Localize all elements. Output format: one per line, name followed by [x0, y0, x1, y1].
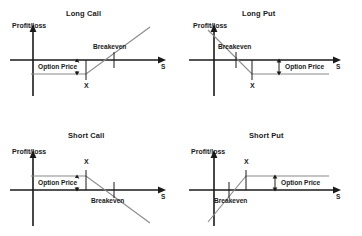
breakeven-label: Breakeven — [91, 197, 124, 204]
breakeven-label: Breakeven — [93, 43, 126, 50]
breakeven-label: Breakeven — [214, 197, 247, 204]
panel-long-call: Long Call Profit/loss S Option Price Bre… — [0, 0, 181, 118]
panel-short-call: Short Call Profit/loss S Option Price Br… — [0, 118, 181, 236]
strike-label: X — [84, 158, 89, 165]
y-axis-label: Profit/loss — [191, 148, 225, 155]
y-axis-label: Profit/loss — [12, 22, 46, 29]
breakeven-label: Breakeven — [218, 43, 251, 50]
premium-label: Option Price — [280, 178, 321, 187]
x-axis-label: S — [336, 63, 340, 70]
premium-label: Option Price — [284, 62, 325, 71]
x-axis-label: S — [161, 193, 165, 200]
panel-title: Short Call — [68, 131, 104, 140]
strike-label: X — [84, 82, 89, 89]
panel-title: Short Put — [249, 131, 284, 140]
y-axis-label: Profit/loss — [193, 22, 227, 29]
x-axis-label: S — [336, 193, 340, 200]
premium-label: Option Price — [37, 178, 78, 187]
y-axis-label: Profit/loss — [12, 148, 46, 155]
panel-title: Long Put — [242, 9, 275, 18]
strike-label: X — [250, 82, 255, 89]
panel-title: Long Call — [66, 9, 101, 18]
panel-short-put: Short Put Profit/loss S Option Price Bre… — [181, 118, 362, 236]
panel-long-put: Long Put Profit/loss S Option Price Brea… — [181, 0, 362, 118]
strike-label: X — [244, 158, 249, 165]
x-axis-label: S — [161, 63, 165, 70]
premium-label: Option Price — [37, 62, 78, 71]
option-payoff-figure: Long Call Profit/loss S Option Price Bre… — [0, 0, 362, 236]
